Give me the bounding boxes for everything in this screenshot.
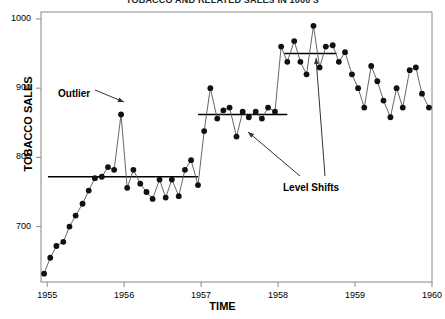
- chart-figure: TOBACCO AND RELATED SALES IN 1000'S TOBA…: [0, 0, 445, 319]
- annotation-level-shifts: Level Shifts: [283, 182, 339, 193]
- axis-tickmarks: [36, 19, 432, 287]
- annotation-arrows: [95, 58, 325, 176]
- annotation-outlier: Outlier: [58, 88, 90, 99]
- plot-area: [0, 0, 445, 319]
- data-series: [41, 23, 432, 277]
- plot-frame: [41, 12, 432, 282]
